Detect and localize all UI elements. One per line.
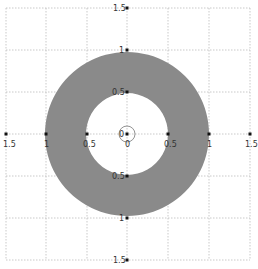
y-axis-labels: 1.5 1 0.5 0 0.5 1 1.5 [112, 4, 126, 265]
x-label: 1 [44, 140, 49, 149]
y-label: 1.5 [113, 4, 126, 13]
y-label: 1.5 [113, 256, 126, 265]
annulus-plot: 1.5 1 0.5 0 0.5 1 1.5 1.5 1 0.5 0 0.5 1 … [0, 0, 258, 269]
x-label: 0.5 [164, 140, 177, 149]
x-label: 0.5 [83, 140, 96, 149]
x-label: 1 [207, 140, 212, 149]
y-label: 0.5 [112, 88, 125, 97]
x-label: 1.5 [3, 140, 16, 149]
y-label: 1 [119, 214, 124, 223]
x-label: 1.5 [245, 140, 258, 149]
y-label: 1 [119, 46, 124, 55]
x-label: 0 [125, 140, 130, 149]
y-label: 0 [119, 130, 124, 139]
y-label: 0.5 [112, 172, 125, 181]
